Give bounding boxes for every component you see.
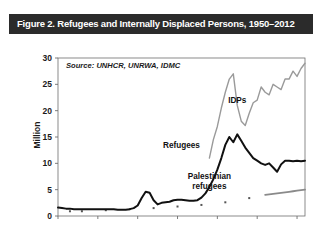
y-tick-label-25: 25: [43, 79, 53, 89]
series-label-idps: IDPs: [228, 96, 247, 105]
source-note: Source: UNHCR, UNRWA, IDMC: [66, 61, 181, 70]
y-tick-label-5: 5: [47, 185, 52, 195]
data-dot: [81, 210, 83, 212]
y-tick-label-20: 20: [43, 106, 53, 116]
data-dot: [200, 204, 202, 206]
data-dot: [177, 206, 179, 208]
figure-title: Figure 2. Refugees and Internally Displa…: [17, 18, 294, 29]
data-dot: [248, 197, 250, 199]
plot-frame: [58, 58, 305, 216]
line-chart-svg: 0510152025301950196019701980199020002010…: [9, 34, 313, 220]
figure-title-bar: Figure 2. Refugees and Internally Displa…: [9, 14, 313, 34]
series-label-palestinian-refugees: Palestinian: [188, 172, 231, 181]
data-dot: [153, 207, 155, 209]
data-dot: [224, 201, 226, 203]
y-tick-label-0: 0: [47, 211, 52, 220]
y-tick-label-10: 10: [43, 158, 53, 168]
series-label-refugees: Refugees: [163, 141, 200, 150]
chart-plot-area: Million 05101520253019501960197019801990…: [9, 34, 313, 220]
series-label-palestinian-refugees-line2: refugees: [192, 182, 227, 191]
y-tick-label-30: 30: [43, 53, 53, 63]
y-tick-label-15: 15: [43, 132, 53, 142]
figure-container: Figure 2. Refugees and Internally Displa…: [9, 14, 313, 220]
data-dot: [69, 210, 71, 212]
